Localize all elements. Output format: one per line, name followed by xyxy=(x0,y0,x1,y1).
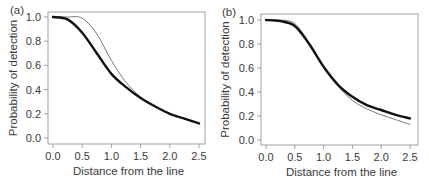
x-tick-label: 0.0 xyxy=(258,151,273,163)
x-tick-label: 1.5 xyxy=(133,150,148,162)
chart-panel-a: 0.00.20.40.60.81.00.00.51.01.52.02.5Dist… xyxy=(0,0,215,184)
x-tick-label: 1.0 xyxy=(316,151,331,163)
x-tick-label: 0.0 xyxy=(45,150,60,162)
y-tick-label: 0.8 xyxy=(26,35,41,47)
x-tick-label: 2.5 xyxy=(191,150,206,162)
plot-frame xyxy=(261,14,418,145)
y-axis-label: Probability of detection xyxy=(219,21,231,137)
series-line-thin xyxy=(266,20,410,125)
y-tick-label: 1.0 xyxy=(26,11,41,23)
y-tick-label: 0.2 xyxy=(239,110,254,122)
panel-label: (a) xyxy=(10,4,24,16)
x-tick-label: 1.0 xyxy=(104,150,119,162)
y-tick-label: 1.0 xyxy=(239,14,254,26)
panel-label: (b) xyxy=(222,6,236,18)
y-tick-label: 0.2 xyxy=(26,108,41,120)
y-tick-label: 0.8 xyxy=(239,38,254,50)
chart-panel-b: 0.00.20.40.60.81.00.00.51.01.52.02.5Dist… xyxy=(215,0,429,184)
series-line-thick xyxy=(53,17,199,123)
y-tick-label: 0.0 xyxy=(26,132,41,144)
y-tick-label: 0.0 xyxy=(239,134,254,146)
x-axis-label: Distance from the line xyxy=(73,165,184,177)
y-tick-label: 0.6 xyxy=(239,62,254,74)
plot-frame xyxy=(48,12,205,144)
x-tick-label: 2.0 xyxy=(374,151,389,163)
x-tick-label: 0.5 xyxy=(75,150,90,162)
y-tick-label: 0.4 xyxy=(26,84,41,96)
y-tick-label: 0.6 xyxy=(26,59,41,71)
chart-b: 0.00.20.40.60.81.00.00.51.01.52.02.5Dist… xyxy=(215,0,429,184)
x-tick-label: 2.0 xyxy=(162,150,177,162)
x-axis-label: Distance from the line xyxy=(286,166,397,178)
x-tick-label: 1.5 xyxy=(345,151,360,163)
chart-a: 0.00.20.40.60.81.00.00.51.01.52.02.5Dist… xyxy=(0,0,215,184)
x-tick-label: 2.5 xyxy=(402,151,417,163)
x-tick-label: 0.5 xyxy=(287,151,302,163)
y-tick-label: 0.4 xyxy=(239,86,254,98)
y-axis-label: Probability of detection xyxy=(7,20,19,136)
series-line-thick xyxy=(266,20,410,118)
series-line-thin xyxy=(53,17,199,124)
